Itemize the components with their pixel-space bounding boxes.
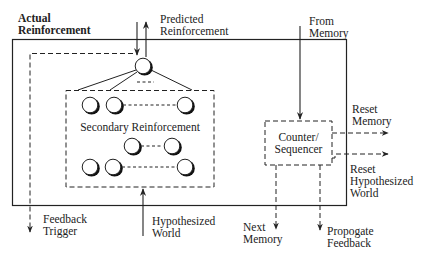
actual-reinforcement-label: Actual Reinforcement — [18, 12, 91, 36]
reset-hypothesized-world-arrow — [332, 154, 388, 158]
neuron-node — [82, 159, 98, 175]
node-connectors — [122, 105, 176, 167]
reset-memory-label: Reset Memory — [352, 103, 392, 127]
secondary-reinforcement-label: Secondary Reinforcement — [79, 121, 201, 133]
counter-sequencer-label: Counter/ Sequencer — [265, 131, 332, 155]
fan-out-lines — [78, 70, 192, 90]
propogate-feedback-label: Propogate Feedback — [327, 225, 374, 249]
hypothesized-world-label: Hypothesized World — [152, 215, 215, 239]
from-memory-label: From Memory — [309, 15, 349, 39]
neuron-node — [106, 97, 122, 113]
neuron-nodes — [82, 58, 195, 176]
neuron-node — [177, 159, 193, 175]
next-memory-label: Next Memory — [243, 221, 283, 245]
neuron-node — [177, 97, 193, 113]
reset-hypothesized-world-label: Reset Hypothesized World — [350, 163, 413, 199]
feedback-trigger-label: Feedback Trigger — [43, 213, 87, 237]
neuron-node — [82, 97, 98, 113]
neuron-node — [135, 58, 151, 74]
predicted-reinforcement-label: Predicted Reinforcement — [160, 13, 228, 37]
neuron-node — [124, 138, 140, 154]
neuron-node — [105, 159, 121, 175]
neuron-node — [164, 138, 180, 154]
